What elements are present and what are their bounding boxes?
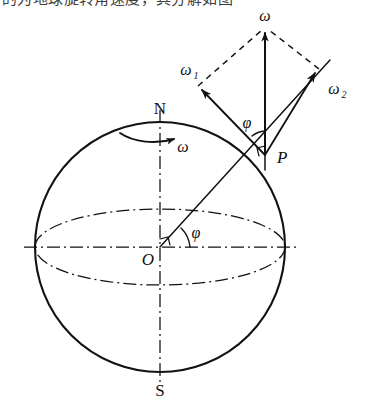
label-omega-1-group: ω 1	[180, 61, 198, 81]
parallelogram-dashed-edge-left	[198, 30, 262, 86]
label-omega-2: ω	[328, 80, 339, 97]
label-omega-arc: ω	[177, 138, 188, 155]
label-center-o: O	[142, 250, 154, 269]
label-omega-1-subscript: 1	[194, 70, 199, 81]
label-phi-at-p: φ	[243, 114, 252, 132]
label-south-pole: S	[155, 381, 164, 400]
sphere-vector-diagram: N S O P ω ω ω 1 ω 2 φ φ	[0, 0, 368, 411]
label-omega-2-group: ω 2	[328, 80, 346, 100]
label-omega-2-subscript: 2	[342, 89, 347, 100]
label-omega-1: ω	[180, 61, 191, 78]
vector-omega-2	[265, 73, 315, 155]
label-north-pole: N	[154, 99, 166, 118]
rotation-arc-omega	[120, 133, 174, 142]
label-point-p: P	[276, 148, 287, 167]
parallelogram-dashed-edge-right	[269, 30, 319, 69]
angle-arc-phi-at-o	[181, 228, 190, 247]
label-phi-at-o: φ	[192, 224, 201, 242]
label-omega-resultant: ω	[259, 7, 270, 24]
figure-root: 的为地球旋转角速度，其分解如图	[0, 0, 368, 411]
